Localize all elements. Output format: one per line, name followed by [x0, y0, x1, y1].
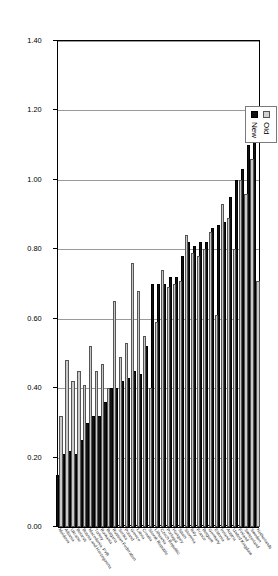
bar-old: [161, 270, 164, 527]
bar-new: [56, 475, 59, 527]
category-label-text: Bulgaria: [106, 528, 119, 544]
category-label: Sweden: [249, 528, 262, 544]
value-tick: [53, 109, 57, 110]
category-label: France: [195, 528, 207, 542]
category-label-text: Belarus: [76, 528, 89, 543]
category-label: Ukraine: [70, 528, 83, 543]
category-label: Finland: [237, 528, 249, 543]
bar-old: [179, 281, 182, 527]
value-axis-label-0.60: 0.60: [20, 313, 50, 322]
bar-old: [203, 249, 206, 527]
category-label-text: Romania: [100, 528, 114, 545]
category-label: Turkey: [94, 528, 106, 542]
category-label-text: Hungary: [171, 528, 185, 544]
category-label-text: Czech Republic: [159, 528, 181, 556]
category-label-text: Russian Federation: [112, 528, 138, 562]
bar-old: [239, 180, 242, 527]
category-label-text: Italy: [189, 528, 198, 537]
value-axis-label-1.40: 1.40: [20, 36, 50, 45]
category-label-text: Slovak Republic: [147, 528, 169, 557]
category-label: Slovak Republic: [147, 528, 169, 557]
bar-old: [197, 256, 200, 527]
category-label-text: Turkey: [94, 528, 106, 542]
gridline-0.00: [58, 527, 259, 528]
bar-old: [125, 343, 128, 527]
value-axis-label-0.20: 0.20: [20, 452, 50, 461]
plot-area: [57, 40, 260, 526]
category-label-text: Serbia: [118, 528, 129, 541]
bar-old: [155, 322, 158, 527]
category-label-text: Slovenia: [183, 528, 197, 545]
category-label-text: Latvia: [136, 528, 147, 540]
category-label-text: Finland: [237, 528, 249, 543]
value-axis-label-0.40: 0.40: [20, 383, 50, 392]
bar-group: [55, 41, 63, 527]
category-label: Moldova: [58, 528, 72, 544]
category-label: Poland: [124, 528, 136, 542]
category-label-text: Moldova: [58, 528, 72, 544]
legend-label-new: New: [251, 122, 260, 138]
category-label: Bosnia and Herzegovina: [82, 528, 114, 570]
legend-item-old: Old: [261, 111, 273, 138]
category-label: Germany: [207, 528, 221, 546]
bar-old: [221, 204, 224, 527]
category-label: Romania: [100, 528, 114, 545]
bar-series-container: [58, 41, 259, 525]
category-label: Russian Federation: [112, 528, 138, 562]
category-label: Italy: [189, 528, 198, 537]
bar-old: [95, 371, 98, 527]
bar-old: [65, 360, 68, 527]
category-label: Macedonia, FYR: [88, 528, 111, 558]
category-label: Greece: [130, 528, 142, 543]
value-tick: [53, 40, 57, 41]
value-tick: [53, 387, 57, 388]
category-label: Spain: [177, 528, 188, 540]
category-label-text: Albania: [64, 528, 77, 543]
category-label-text: Lithuania: [153, 528, 167, 545]
category-label: Slovenia: [183, 528, 197, 545]
bar-old: [71, 381, 74, 527]
category-label-text: Switzerland: [243, 528, 260, 549]
category-label-text: Sweden: [249, 528, 262, 544]
bar-old: [143, 336, 146, 527]
bar-old: [149, 388, 152, 527]
bar-old: [131, 263, 134, 527]
category-label: Netherlands: [255, 528, 273, 550]
bar-old: [137, 291, 140, 527]
value-axis-label-1.20: 1.20: [20, 105, 50, 114]
category-label: United Kingdom: [231, 528, 253, 556]
category-label: Austria: [225, 528, 237, 542]
category-label-text: Germany: [207, 528, 221, 546]
category-label: Bulgaria: [106, 528, 119, 544]
category-label: Albania: [64, 528, 77, 543]
category-label-text: Ireland: [219, 528, 231, 542]
bar-old: [107, 388, 110, 527]
bar-old: [173, 284, 176, 527]
bar-old: [245, 194, 248, 527]
category-label-text: Austria: [225, 528, 237, 542]
category-label: Ireland: [219, 528, 231, 542]
category-label-text: Poland: [124, 528, 136, 542]
category-label: Hungary: [171, 528, 185, 544]
category-label-text: Portugal: [165, 528, 178, 544]
category-label-text: Estonia: [213, 528, 226, 543]
legend-label-old: Old: [263, 122, 272, 134]
category-label: Estonia: [213, 528, 226, 543]
category-label: Belarus: [76, 528, 89, 543]
category-label: Belgium: [201, 528, 214, 544]
category-label-text: Greece: [130, 528, 142, 543]
category-label-text: Croatia: [142, 528, 154, 542]
bar-chart-figure: NetherlandsSwedenSwitzerlandFinlandUnite…: [0, 0, 278, 576]
category-label-text: Bosnia and Herzegovina: [82, 528, 114, 570]
bar-old: [233, 249, 236, 527]
category-label: Croatia: [142, 528, 154, 542]
category-label: Portugal: [165, 528, 178, 544]
category-label: Latvia: [136, 528, 147, 540]
value-tick: [53, 457, 57, 458]
bar-old: [113, 301, 116, 527]
bar-old: [227, 218, 230, 527]
category-label-text: Spain: [177, 528, 188, 540]
value-tick: [53, 248, 57, 249]
category-label: Serbia: [118, 528, 129, 541]
legend-swatch-old-icon: [264, 111, 271, 118]
